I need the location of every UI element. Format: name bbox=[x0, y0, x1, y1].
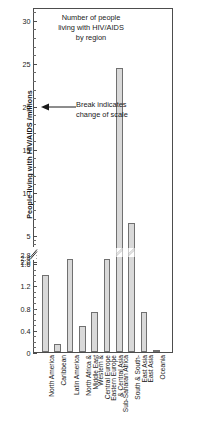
y-tick-minor bbox=[33, 227, 36, 228]
y-tick-minor bbox=[33, 292, 36, 293]
category-label-line: Caribbean bbox=[60, 355, 67, 385]
y-tick-minor bbox=[33, 115, 36, 116]
y-tick-minor bbox=[33, 55, 36, 56]
break-annotation-text: Break indicateschange of scale bbox=[76, 100, 146, 119]
y-axis-line bbox=[33, 8, 34, 353]
y-tick-minor bbox=[33, 314, 36, 315]
text-line: by region bbox=[42, 33, 140, 43]
x-axis-category-label: Caribbean bbox=[60, 355, 67, 385]
y-tick-minor bbox=[33, 167, 36, 168]
bar bbox=[91, 312, 98, 352]
category-label-line: Sub-Saharan Africa bbox=[122, 355, 129, 412]
y-tick-minor bbox=[33, 336, 36, 337]
x-axis-category-label: Oceania bbox=[159, 355, 166, 380]
bar bbox=[141, 312, 148, 352]
y-tick-minor bbox=[33, 281, 36, 282]
y-tick-minor bbox=[33, 342, 36, 343]
x-axis-category-label: East Asia bbox=[147, 355, 154, 383]
y-tick-minor bbox=[33, 12, 36, 13]
plot-frame-right bbox=[172, 8, 173, 353]
y-tick-label: 15 bbox=[23, 145, 31, 154]
x-axis-category-label: Sub-Saharan Africa bbox=[122, 355, 129, 412]
y-tick-label: 0.4 bbox=[21, 326, 31, 335]
y-tick-minor bbox=[33, 309, 36, 310]
y-tick-major: 1.6 bbox=[33, 264, 37, 265]
y-tick-minor bbox=[33, 210, 36, 211]
y-tick-minor bbox=[33, 141, 36, 142]
y-tick-minor bbox=[33, 124, 36, 125]
y-tick-major: 2.4 bbox=[33, 258, 37, 259]
x-axis-category-label: North America bbox=[48, 355, 55, 397]
text-line: Break indicates bbox=[76, 100, 146, 110]
bar bbox=[79, 326, 86, 352]
chart-title: Number of peopleliving with HIV/AIDSby r… bbox=[42, 13, 140, 43]
text-line: Number of people bbox=[42, 13, 140, 23]
y-tick-minor bbox=[33, 320, 36, 321]
y-tick-minor bbox=[33, 47, 36, 48]
y-tick-minor bbox=[33, 219, 36, 220]
y-tick-label: 25 bbox=[23, 59, 31, 68]
y-tick-label: 5 bbox=[27, 231, 31, 240]
y-tick-major: 30 bbox=[33, 21, 37, 22]
y-tick-minor bbox=[33, 251, 36, 252]
y-tick-major: 15 bbox=[33, 150, 37, 151]
plot-frame-top bbox=[33, 8, 173, 9]
y-tick-minor bbox=[33, 240, 36, 241]
y-tick-minor bbox=[33, 244, 36, 245]
y-tick-minor bbox=[33, 133, 36, 134]
y-tick-label: 0 bbox=[27, 349, 31, 358]
y-tick-major: 1.2 bbox=[33, 286, 37, 287]
y-tick-major: 2.0 bbox=[33, 262, 37, 263]
y-tick-minor bbox=[33, 90, 36, 91]
y-tick-label: 0.8 bbox=[21, 304, 31, 313]
bar bbox=[42, 275, 49, 352]
category-label-line: North Africa & bbox=[85, 355, 92, 396]
bar-break-icon bbox=[128, 248, 135, 257]
y-tick-label: 20 bbox=[23, 102, 31, 111]
y-tick-minor bbox=[33, 184, 36, 185]
y-tick-minor bbox=[33, 158, 36, 159]
bar-break-icon bbox=[116, 248, 123, 257]
x-axis-category-labels: North AmericaCaribbeanLatin AmericaNorth… bbox=[33, 353, 173, 432]
y-tick-minor bbox=[33, 81, 36, 82]
y-tick-major: 5 bbox=[33, 236, 37, 237]
bar bbox=[104, 259, 111, 352]
y-tick-label: 1.2 bbox=[21, 282, 31, 291]
bar bbox=[153, 350, 160, 352]
text-line: living with HIV/AIDS bbox=[42, 23, 140, 33]
y-tick-minor bbox=[33, 72, 36, 73]
y-tick-major: 25 bbox=[33, 64, 37, 65]
y-tick-minor bbox=[33, 297, 36, 298]
y-tick-major: 2.8 bbox=[33, 255, 37, 256]
category-label-line: North America bbox=[48, 355, 55, 397]
y-tick-label: 30 bbox=[23, 16, 31, 25]
break-annotation-arrow-icon bbox=[40, 101, 76, 113]
y-tick-major: 10 bbox=[33, 193, 37, 194]
category-label-line: Oceania bbox=[159, 355, 166, 380]
chart-figure: People living with HIV/AIDS /millions 00… bbox=[0, 0, 206, 432]
bar bbox=[128, 223, 135, 352]
bar bbox=[67, 259, 74, 352]
y-tick-minor bbox=[33, 38, 36, 39]
y-tick-minor bbox=[33, 347, 36, 348]
category-label-line: Latin America bbox=[73, 355, 80, 395]
y-tick-label: 10 bbox=[23, 188, 31, 197]
category-label-line: Eastern Europe bbox=[110, 355, 117, 401]
y-tick-minor bbox=[33, 248, 36, 249]
y-tick-minor bbox=[33, 275, 36, 276]
y-tick-label: 2.8 bbox=[21, 250, 31, 259]
bar bbox=[54, 344, 61, 352]
y-tick-minor bbox=[33, 201, 36, 202]
y-tick-minor bbox=[33, 270, 36, 271]
y-tick-minor bbox=[33, 303, 36, 304]
category-label-line: East Asia bbox=[147, 355, 154, 383]
text-line: change of scale bbox=[76, 110, 146, 120]
y-tick-minor bbox=[33, 176, 36, 177]
x-axis-category-label: Latin America bbox=[73, 355, 80, 395]
y-tick-minor bbox=[33, 98, 36, 99]
y-tick-minor bbox=[33, 325, 36, 326]
y-tick-major: 0.4 bbox=[33, 331, 37, 332]
plot-area: 00.40.81.21.62.02.42.851015202530 bbox=[33, 8, 173, 353]
y-tick-major: 20 bbox=[33, 107, 37, 108]
y-tick-minor bbox=[33, 29, 36, 30]
